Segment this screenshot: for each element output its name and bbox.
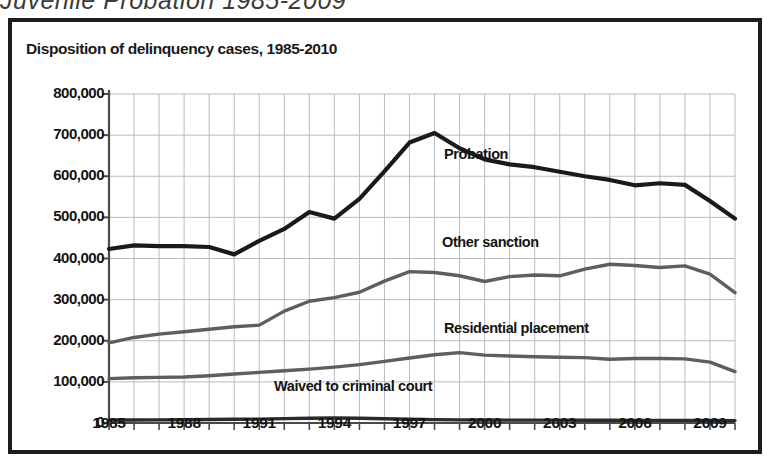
y-axis-tick-label: 800,000 <box>53 84 104 101</box>
y-axis-tick-label: 700,000 <box>53 125 104 142</box>
x-axis-tick-label: 2009 <box>693 414 726 432</box>
plot-area: 800,000700,000600,000500,000400,000300,0… <box>12 22 758 450</box>
series-line-other-sanction <box>109 264 735 343</box>
y-axis-tick-label: 100,000 <box>53 372 104 389</box>
series-label-residential-placement: Residential placement <box>444 320 589 336</box>
chart-figure-frame: Disposition of delinquency cases, 1985-2… <box>8 18 762 454</box>
y-axis-tick-label: 300,000 <box>53 290 104 307</box>
x-axis-tick-label: 1997 <box>393 414 426 432</box>
series-line-probation <box>109 133 735 254</box>
x-axis-tick-label: 1991 <box>243 414 276 432</box>
page-heading-clip: Juvenile Probation 1985-2009 <box>0 0 779 16</box>
y-axis-tick-labels: 800,000700,000600,000500,000400,000300,0… <box>18 22 104 450</box>
x-axis-tick-label: 2000 <box>468 414 501 432</box>
y-axis-tick-label: 400,000 <box>53 249 104 266</box>
y-axis-tick-label: 600,000 <box>53 166 104 183</box>
x-axis-tick-label: 1994 <box>318 414 351 432</box>
y-axis-tick-label: 200,000 <box>53 331 104 348</box>
x-axis-tick-label: 1985 <box>92 414 125 432</box>
x-axis-tick-label: 1988 <box>167 414 200 432</box>
series-line-residential-placement <box>109 353 735 379</box>
x-axis-tick-label: 2006 <box>618 414 651 432</box>
series-label-other-sanction: Other sanction <box>442 234 539 250</box>
x-axis-tick-label: 2003 <box>543 414 576 432</box>
y-axis-tick-label: 500,000 <box>53 207 104 224</box>
series-label-waived-to-criminal-court: Waived to criminal court <box>274 378 432 394</box>
series-label-probation: Probation <box>444 146 508 162</box>
page-heading: Juvenile Probation 1985-2009 <box>0 0 346 15</box>
x-axis-tick-labels: 198519881991199419972000200320062009 <box>12 414 758 444</box>
